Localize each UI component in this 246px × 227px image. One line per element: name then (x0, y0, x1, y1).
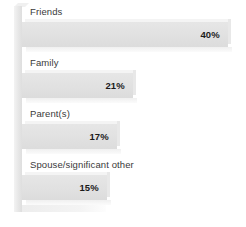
bar[interactable]: 15% (22, 175, 107, 200)
bar-drop-shadow (26, 47, 232, 52)
bar-label: Spouse/significant other (30, 159, 134, 170)
bar-front-face (22, 22, 228, 47)
bar-side-face (228, 19, 231, 44)
chart-floor-shadow (22, 205, 106, 212)
bar-drop-shadow (26, 200, 111, 205)
bar-value-label: 17% (89, 124, 109, 149)
bar[interactable]: 40% (22, 22, 228, 47)
bar-value-label: 15% (79, 175, 99, 200)
bar-value-label: 40% (200, 22, 220, 47)
bar-side-face (133, 70, 136, 95)
bar-label: Friends (30, 6, 62, 17)
bar-side-face (117, 121, 120, 146)
bar-label: Family (30, 57, 59, 68)
bar-chart: Friends 40% Family 21% Parent(s) 17% (0, 0, 246, 227)
bar[interactable]: 21% (22, 73, 133, 98)
axis-wall (14, 6, 22, 212)
bar-drop-shadow (26, 149, 121, 154)
bar-drop-shadow (26, 98, 137, 103)
bar-value-label: 21% (105, 73, 125, 98)
bar-side-face (107, 172, 110, 197)
bar-label: Parent(s) (30, 108, 70, 119)
bar[interactable]: 17% (22, 124, 117, 149)
